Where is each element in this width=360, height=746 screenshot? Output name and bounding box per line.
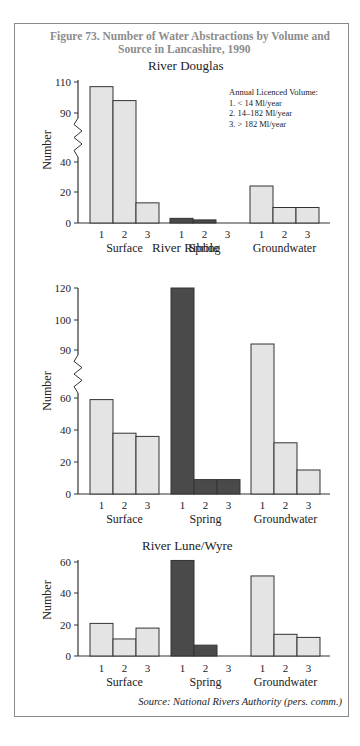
bar <box>273 208 296 224</box>
x-tick-label: 3 <box>306 662 312 674</box>
group-label: Groundwater <box>254 675 317 689</box>
x-tick-label: 1 <box>180 662 186 674</box>
x-tick-label: 2 <box>203 499 209 511</box>
x-tick-label: 1 <box>99 228 105 240</box>
bar <box>136 436 159 494</box>
bar <box>274 443 297 494</box>
group-label: Spring <box>188 241 220 255</box>
x-tick-label: 1 <box>99 662 105 674</box>
bar <box>113 639 136 656</box>
x-tick-label: 3 <box>225 228 231 240</box>
y-tick-label: 60 <box>60 556 72 568</box>
y-tick-label: 20 <box>60 456 72 468</box>
group-label: Spring <box>189 675 221 689</box>
y-tick-label: 0 <box>66 217 72 229</box>
x-tick-label: 2 <box>122 662 128 674</box>
source-note: Source: National Rivers Authority (pers.… <box>138 696 342 707</box>
bar <box>297 637 320 656</box>
x-tick-label: 3 <box>226 662 232 674</box>
y-tick-label: 120 <box>55 282 72 294</box>
y-tick-label: 0 <box>66 488 72 500</box>
y-tick-label: 90 <box>60 344 72 356</box>
x-tick-label: 2 <box>122 228 128 240</box>
x-tick-label: 2 <box>202 228 208 240</box>
x-tick-label: 1 <box>260 662 266 674</box>
bar <box>90 87 113 223</box>
group-label: Surface <box>106 512 143 526</box>
y-axis-label: Number <box>40 371 54 410</box>
y-tick-label: 100 <box>55 314 72 326</box>
x-tick-label: 2 <box>282 228 288 240</box>
bar <box>250 186 273 223</box>
axis-break-icon <box>74 355 82 393</box>
group-label: Groundwater <box>254 512 317 526</box>
x-tick-label: 3 <box>145 228 151 240</box>
x-tick-label: 2 <box>283 662 289 674</box>
y-tick-label: 60 <box>60 392 72 404</box>
bar <box>171 560 194 656</box>
y-axis-label: Number <box>40 580 54 619</box>
bar <box>171 288 194 494</box>
bar <box>90 623 113 656</box>
bar <box>136 203 159 223</box>
x-tick-label: 3 <box>306 499 312 511</box>
y-tick-label: 40 <box>60 424 72 436</box>
group-label: Groundwater <box>253 241 316 255</box>
bar <box>113 101 136 223</box>
y-tick-label: 40 <box>60 587 72 599</box>
bar <box>251 344 274 494</box>
bar <box>194 480 217 494</box>
x-tick-label: 3 <box>305 228 311 240</box>
x-tick-label: 1 <box>260 499 266 511</box>
x-tick-label: 1 <box>259 228 265 240</box>
bar <box>113 433 136 494</box>
x-tick-label: 1 <box>180 499 186 511</box>
bar <box>194 645 217 656</box>
x-tick-label: 2 <box>283 499 289 511</box>
charts-canvas: 0204090110Number123Surface123Spring123Gr… <box>0 0 360 746</box>
y-tick-label: 110 <box>55 76 72 88</box>
x-tick-label: 3 <box>145 499 151 511</box>
y-axis-label: Number <box>40 130 54 169</box>
bar <box>193 220 216 223</box>
y-tick-label: 0 <box>66 650 72 662</box>
axis-break-icon <box>74 118 82 157</box>
x-tick-label: 3 <box>226 499 232 511</box>
group-label: Surface <box>106 675 143 689</box>
x-tick-label: 2 <box>122 499 128 511</box>
bar <box>297 470 320 494</box>
bar <box>90 400 113 494</box>
y-tick-label: 90 <box>60 107 72 119</box>
bar <box>136 628 159 656</box>
bar <box>217 480 240 494</box>
x-tick-label: 1 <box>179 228 185 240</box>
bar <box>251 576 274 656</box>
group-label: Surface <box>106 241 143 255</box>
y-tick-label: 20 <box>60 186 72 198</box>
group-label: Spring <box>189 512 221 526</box>
y-tick-label: 40 <box>60 156 72 168</box>
x-tick-label: 3 <box>145 662 151 674</box>
bar <box>274 634 297 656</box>
bar <box>170 218 193 223</box>
x-tick-label: 2 <box>203 662 209 674</box>
bar <box>296 208 319 224</box>
y-tick-label: 20 <box>60 619 72 631</box>
x-tick-label: 1 <box>99 499 105 511</box>
